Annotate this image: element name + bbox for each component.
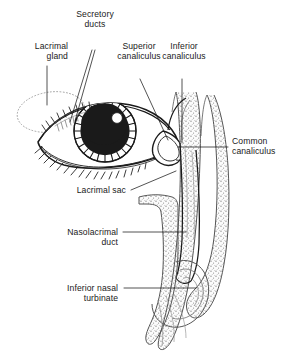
- label-lacrimal-gland: Lacrimal gland: [6, 41, 68, 61]
- leader-lines: [47, 50, 228, 288]
- label-lacrimal-sac: Lacrimal sac: [42, 185, 126, 195]
- corneal-highlight: [112, 113, 123, 124]
- label-inferior-nasal-turbinate: Inferior nasal turbinate: [33, 283, 118, 303]
- label-inferior-canaliculus: Inferior canaliculus: [148, 41, 220, 61]
- lacrimal-apparatus-figure: Secretory ducts Lacrimal gland Superior …: [0, 0, 287, 354]
- label-common-canaliculus: Common canaliculus: [232, 136, 287, 156]
- label-nasolacrimal-duct: Nasolacrimal duct: [33, 227, 118, 247]
- iris: [74, 100, 136, 162]
- label-secretory-ducts: Secretory ducts: [58, 9, 132, 29]
